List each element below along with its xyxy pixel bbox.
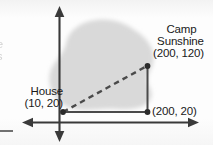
point-house bbox=[60, 109, 66, 115]
house-label: House bbox=[7, 85, 63, 97]
figure-canvas: Camp Sunshine (200, 120) House (10, 20) … bbox=[0, 0, 213, 145]
camp-sunshine-coords: (200, 120) bbox=[153, 47, 204, 59]
camp-sunshine-label-line2: Sunshine bbox=[148, 35, 213, 47]
corner-coords: (200, 20) bbox=[152, 105, 197, 117]
edge-fragment-top: e bbox=[0, 38, 3, 50]
point-corner bbox=[145, 109, 151, 115]
edge-fragment-bottom: s bbox=[0, 50, 3, 62]
house-coords: (10, 20) bbox=[3, 97, 63, 109]
margin-rule-fragment bbox=[0, 130, 13, 132]
diagram-svg bbox=[0, 0, 213, 145]
camp-sunshine-label-line1: Camp bbox=[150, 23, 213, 35]
lake-shape bbox=[49, 20, 153, 110]
horizontal-axis bbox=[22, 118, 199, 128]
point-camp-sunshine bbox=[145, 63, 151, 69]
